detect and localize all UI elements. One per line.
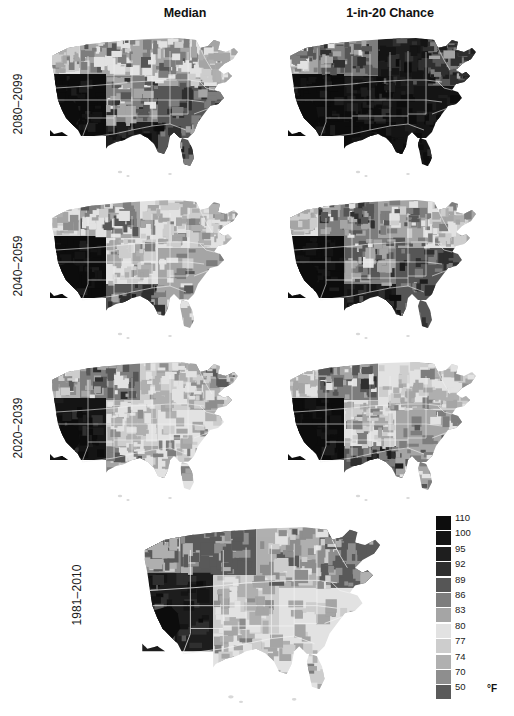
legend-swatch xyxy=(436,655,451,669)
legend-row: 95 xyxy=(436,547,471,562)
legend-value-label: 100 xyxy=(455,528,471,538)
legend-row: 70 xyxy=(436,670,471,685)
legend-colorbar: 11010095928986838077747050 °F xyxy=(436,516,471,701)
map-2020-2039-median xyxy=(28,350,258,508)
map-2080-2099-median xyxy=(28,26,258,184)
legend-value-label: 86 xyxy=(455,590,466,600)
row-label-2080-2099: 2080–2099 xyxy=(11,69,25,139)
row-label-1981-2010: 1981–2010 xyxy=(70,560,84,630)
legend-value-label: 92 xyxy=(455,559,466,569)
legend-row: 50 xyxy=(436,685,471,700)
legend-swatch xyxy=(436,593,451,607)
legend-swatch xyxy=(436,639,451,653)
figure-panel-grid: Median 1-in-20 Chance 2080–2099 2040–205… xyxy=(0,0,514,716)
map-2040-2059-chance xyxy=(266,188,496,346)
legend-swatch xyxy=(436,670,451,684)
legend-swatch xyxy=(436,685,451,699)
map-2040-2059-median xyxy=(28,188,258,346)
legend-value-label: 70 xyxy=(455,667,466,677)
legend-unit-label: °F xyxy=(487,683,497,694)
legend-value-label: 80 xyxy=(455,621,466,631)
legend-row: 74 xyxy=(436,655,471,670)
legend-value-label: 50 xyxy=(455,682,466,692)
map-2080-2099-chance xyxy=(266,26,496,184)
legend-row: 83 xyxy=(436,608,471,623)
legend-swatch xyxy=(436,531,451,545)
legend-swatch xyxy=(436,578,451,592)
column-header-chance: 1-in-20 Chance xyxy=(300,6,480,20)
legend-row: 80 xyxy=(436,624,471,639)
legend-value-label: 83 xyxy=(455,605,466,615)
legend-value-label: 74 xyxy=(455,652,466,662)
row-label-2040-2059: 2040–2059 xyxy=(11,231,25,301)
legend-row: 100 xyxy=(436,531,471,546)
legend-row: 77 xyxy=(436,639,471,654)
legend-swatch xyxy=(436,516,451,530)
legend-swatch xyxy=(436,547,451,561)
map-1981-2010-baseline xyxy=(95,512,425,712)
legend-row: 92 xyxy=(436,562,471,577)
legend-row: 89 xyxy=(436,578,471,593)
legend-value-label: 110 xyxy=(455,513,470,523)
legend-swatch xyxy=(436,608,451,622)
column-header-median: Median xyxy=(105,6,265,20)
map-2020-2039-chance xyxy=(266,350,496,508)
row-label-2020-2039: 2020–2039 xyxy=(11,393,25,463)
legend-value-label: 77 xyxy=(455,636,466,646)
legend-swatch xyxy=(436,624,451,638)
legend-value-label: 95 xyxy=(455,544,466,554)
legend-swatch xyxy=(436,562,451,576)
legend-value-label: 89 xyxy=(455,575,466,585)
legend-row: 86 xyxy=(436,593,471,608)
